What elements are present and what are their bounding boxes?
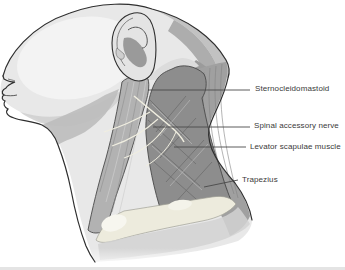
label-sternocleidomastoid: Sternocleidomastoid [255,85,329,94]
label-levator-scapulae: Levator scapulae muscle [250,143,341,152]
neck-muscles-illustration [0,0,345,270]
label-trapezius: Trapezius [242,176,278,185]
label-spinal-accessory-nerve: Spinal accessory nerve [254,122,339,131]
bottom-fade [60,248,345,270]
anatomy-figure: Sternocleidomastoid Spinal accessory ner… [0,0,345,270]
